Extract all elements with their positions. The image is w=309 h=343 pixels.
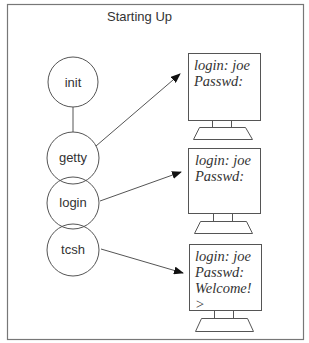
terminal-base [195,222,253,234]
terminal-neck [213,121,232,128]
terminal-base [196,319,254,332]
process-node-getty [47,132,99,184]
terminal-neck [214,214,233,222]
terminal-base [194,128,253,140]
starting-up-diagram: Starting Up init getty login tcsh login:… [0,0,309,343]
arrow-login-to-terminal-2 [100,172,181,201]
terminal-1 [189,54,261,140]
process-node-init [48,57,98,107]
terminal-screen [189,149,261,214]
arrow-getty-to-terminal-1 [96,74,180,146]
terminal-neck [215,311,234,319]
arrow-tcsh-to-terminal-3 [101,249,183,273]
process-node-login [47,177,99,229]
terminal-3 [190,245,262,332]
terminal-screen [190,245,262,311]
terminal-2 [189,149,261,234]
process-node-tcsh [47,224,99,276]
terminal-screen [189,54,261,121]
